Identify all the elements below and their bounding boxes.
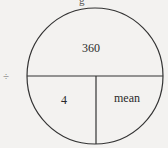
divide-operator-icon: ÷ (3, 70, 9, 82)
formula-circle-diagram: g ÷ 360 4 mean (0, 0, 168, 148)
bottom-right-section-label: mean (114, 92, 140, 104)
circle-diagram-graphic (0, 0, 168, 148)
top-section-label: 360 (82, 42, 100, 54)
bottom-left-section-label: 4 (61, 94, 67, 106)
